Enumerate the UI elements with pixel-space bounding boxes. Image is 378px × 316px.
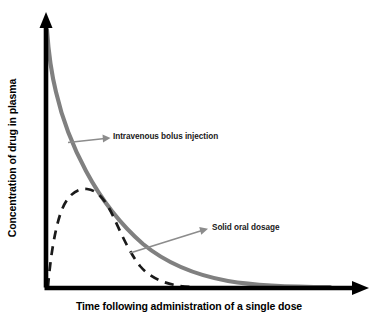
x-axis-title: Time following administration of a singl…: [0, 300, 378, 312]
y-axis-arrowhead-icon: [40, 12, 53, 28]
chart-figure: Concentration of drug in plasma Time fol…: [0, 0, 378, 316]
y-axis-title-text: Concentration of drug in plasma: [6, 79, 18, 238]
chart-plot-area: [0, 0, 378, 316]
y-axis-title: Concentration of drug in plasma: [0, 0, 24, 316]
x-axis-arrowhead-icon: [352, 281, 369, 295]
annotation-arrow-intravenous-bolus-injection: [68, 134, 111, 142]
annotation-arrow-solid-oral-dosage: [130, 227, 208, 253]
series-label-solid-oral-dosage: Solid oral dosage: [212, 223, 279, 232]
series-line-solid-oral-dosage: [48, 189, 192, 287]
series-label-intravenous-bolus-injection: Intravenous bolus injection: [113, 132, 218, 141]
series-line-intravenous-bolus-injection: [47, 30, 330, 287]
